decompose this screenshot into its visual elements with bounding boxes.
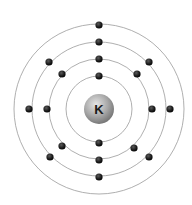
electron-shell-2 [43,105,50,112]
electron-shell-2 [58,142,65,149]
electron-shell-4 [95,21,102,28]
atom-diagram: K [0,0,192,205]
electron-shell-3 [166,105,173,112]
electron-shell-3 [25,105,32,112]
electron-shell-2 [58,70,65,77]
electron-shell-3 [145,58,152,65]
element-symbol: K [94,102,104,117]
electron-shell-3 [145,153,152,160]
electron-shell-3 [95,173,102,180]
electron-shell-2 [148,105,155,112]
electron-shell-3 [46,153,53,160]
electron-shell-3 [45,58,52,65]
nucleus: K [84,94,114,124]
electron-shell-2 [133,70,140,77]
electron-shell-1 [95,72,102,79]
electron-shell-2 [95,55,102,62]
electron-shell-3 [95,38,102,45]
electron-shell-1 [95,139,102,146]
electron-shell-2 [130,144,137,151]
electron-shell-2 [95,156,102,163]
